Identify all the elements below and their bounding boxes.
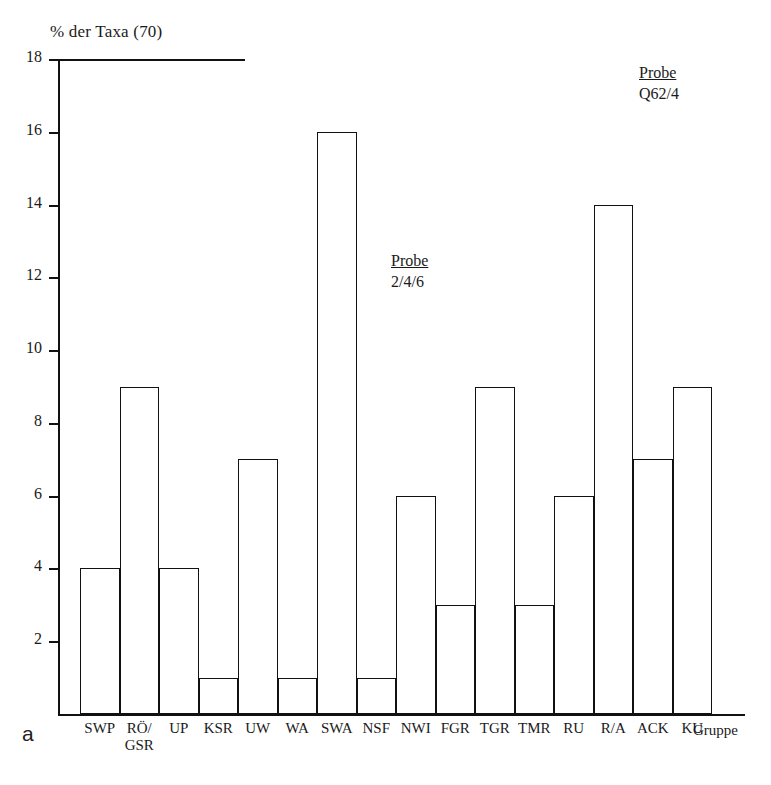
y-tick-label-16: 16 [26, 121, 42, 139]
bar [633, 459, 673, 714]
bar [554, 496, 594, 714]
bar [120, 387, 160, 715]
bar [238, 459, 278, 714]
y-tick-label-10: 10 [26, 339, 42, 357]
annotation-probe-q62: Probe Q62/4 [639, 62, 679, 104]
x-axis-title: Gruppe [693, 722, 738, 739]
bar [357, 678, 397, 714]
y-tick-label-12: 12 [26, 266, 42, 284]
y-tick-label-6: 6 [34, 485, 42, 503]
bar [159, 568, 199, 714]
annotation-probe-246-header: Probe [391, 250, 428, 271]
bar [396, 496, 436, 714]
bar [594, 205, 634, 714]
x-axis-tick-labels: SWPRÖ/ GSRUPKSRUWWASWANSFNWIFGRTGRTMRRUR… [58, 720, 758, 780]
plot-area: 24681012141618 [58, 59, 745, 716]
y-tick-label-2: 2 [34, 630, 42, 648]
bar [475, 387, 515, 715]
y-tick-label-18: 18 [26, 48, 42, 66]
y-axis-title: % der Taxa (70) [50, 22, 162, 42]
annotation-probe-q62-value: Q62/4 [639, 83, 679, 104]
bar [515, 605, 555, 714]
bar [199, 678, 239, 714]
y-tick-label-8: 8 [34, 412, 42, 430]
annotation-probe-q62-header: Probe [639, 62, 679, 83]
bar [80, 568, 120, 714]
bar [278, 678, 318, 714]
annotation-probe-246-value: 2/4/6 [391, 271, 428, 292]
bar [317, 132, 357, 714]
bar [673, 387, 713, 715]
bar [436, 605, 476, 714]
annotation-probe-246: Probe 2/4/6 [391, 250, 428, 292]
bar-chart-figure: % der Taxa (70) 24681012141618 SWPRÖ/ GS… [0, 0, 771, 785]
y-tick-label-4: 4 [34, 557, 42, 575]
bars-group [58, 59, 745, 716]
y-tick-label-14: 14 [26, 194, 42, 212]
panel-letter: a [22, 722, 34, 746]
